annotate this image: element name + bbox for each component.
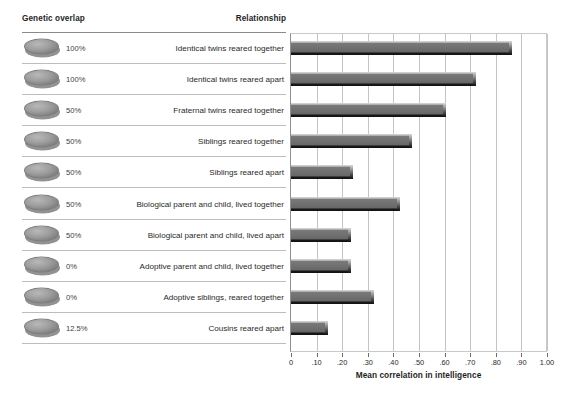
axis-tick	[368, 353, 369, 357]
axis-tick	[445, 353, 446, 357]
bar-slot	[291, 65, 547, 96]
bar-slot	[291, 190, 547, 221]
x-axis-title: Mean correlation in intelligence	[290, 370, 547, 380]
axis-tick	[393, 353, 394, 357]
bar	[291, 72, 475, 86]
gray-disc-icon	[24, 287, 60, 306]
axis-tick-label: 0	[289, 358, 293, 367]
genetic-overlap-value: 12.5%	[66, 323, 88, 332]
gray-disc-icon	[24, 225, 60, 244]
table-row: 50%Fraternal twins reared together	[22, 95, 286, 126]
disc-body	[24, 318, 59, 334]
relationship-label: Biological parent and child, lived toget…	[136, 199, 284, 208]
relationship-label: Siblings reared apart	[209, 168, 284, 177]
gray-disc-icon	[24, 256, 60, 275]
genetic-overlap-intelligence-chart: Genetic overlap Relationship 100%Identic…	[0, 0, 569, 410]
genetic-overlap-value: 50%	[66, 168, 81, 177]
gray-disc-icon	[24, 132, 60, 151]
genetic-overlap-value: 100%	[66, 44, 85, 53]
disc-body	[24, 163, 59, 179]
table-row: 50%Biological parent and child, lived to…	[22, 188, 286, 219]
axis-tick-label: .60	[439, 358, 449, 367]
bar	[291, 165, 352, 179]
bar-slot	[291, 96, 547, 127]
gray-disc-icon	[24, 163, 60, 182]
table-row: 0%Adoptive parent and child, lived toget…	[22, 251, 286, 282]
relationship-rows: 100%Identical twins reared together100%I…	[22, 33, 286, 344]
axis-tick-label: .80	[491, 358, 501, 367]
bar-slot	[291, 127, 547, 158]
axis-tick	[291, 353, 292, 357]
axis-tick	[342, 353, 343, 357]
axis-tick	[470, 353, 471, 357]
axis-tick	[521, 353, 522, 357]
relationship-label: Identical twins reared together	[176, 44, 284, 53]
axis-tick-label: .90	[516, 358, 526, 367]
disc-body	[24, 225, 59, 241]
relationship-label: Fraternal twins reared together	[173, 106, 284, 115]
bar-slot	[291, 34, 547, 65]
relationship-label: Siblings reared together	[198, 137, 284, 146]
relationship-label: Identical twins reared apart	[187, 75, 284, 84]
genetic-overlap-value: 50%	[66, 199, 81, 208]
bar	[291, 321, 327, 335]
bar-end-cap	[371, 290, 374, 304]
bar	[291, 290, 373, 304]
genetic-overlap-value: 50%	[66, 106, 81, 115]
bar	[291, 134, 411, 148]
disc-body	[24, 132, 59, 148]
bar-end-cap	[397, 197, 400, 211]
gray-disc-icon	[24, 39, 60, 58]
gray-disc-icon	[24, 194, 60, 213]
bar	[291, 41, 511, 55]
header-genetic-overlap: Genetic overlap	[22, 14, 85, 23]
bar-end-cap	[473, 72, 476, 86]
bar	[291, 103, 445, 117]
header-relationship: Relationship	[236, 14, 286, 23]
table-row: 50%Siblings reared together	[22, 126, 286, 157]
axis-tick-label: 1.00	[540, 358, 554, 367]
gray-disc-icon	[24, 318, 60, 337]
gray-disc-icon	[24, 70, 60, 89]
disc-body	[24, 287, 59, 303]
bar-end-cap	[443, 103, 446, 117]
column-headers: Genetic overlap Relationship	[22, 14, 286, 32]
bar-slot	[291, 314, 547, 345]
disc-body	[24, 39, 59, 55]
axis-tick	[547, 353, 548, 357]
bar	[291, 228, 350, 242]
bar-end-cap	[348, 228, 351, 242]
bar-end-cap	[348, 259, 351, 273]
bar-slot	[291, 221, 547, 252]
gray-disc-icon	[24, 101, 60, 120]
table-row: 50%Siblings reared apart	[22, 157, 286, 188]
bar-slot	[291, 283, 547, 314]
bar-slot	[291, 158, 547, 189]
disc-body	[24, 70, 59, 86]
genetic-overlap-value: 0%	[66, 292, 77, 301]
table-row: 0%Adoptive siblings, reared together	[22, 282, 286, 313]
relationship-label: Cousins reared apart	[208, 323, 284, 332]
disc-body	[24, 194, 59, 210]
genetic-overlap-value: 50%	[66, 137, 81, 146]
axis-tick-label: .20	[337, 358, 347, 367]
axis-tick-label: .50	[414, 358, 424, 367]
axis-tick-label: .10	[311, 358, 321, 367]
bar-end-cap	[409, 134, 412, 148]
disc-body	[24, 101, 59, 117]
relationship-label: Biological parent and child, lived apart	[148, 230, 284, 239]
bar	[291, 259, 350, 273]
table-row: 50%Biological parent and child, lived ap…	[22, 220, 286, 251]
bar-end-cap	[509, 41, 512, 55]
axis-tick	[496, 353, 497, 357]
bar-slot	[291, 252, 547, 283]
axis-tick-label: .30	[363, 358, 373, 367]
axis-tick	[317, 353, 318, 357]
gridline	[547, 34, 548, 351]
genetic-overlap-value: 0%	[66, 261, 77, 270]
genetic-overlap-value: 100%	[66, 75, 85, 84]
axis-tick-label: .40	[388, 358, 398, 367]
relationship-label: Adoptive siblings, reared together	[163, 292, 284, 301]
bar	[291, 197, 399, 211]
axis-tick-label: .70	[465, 358, 475, 367]
